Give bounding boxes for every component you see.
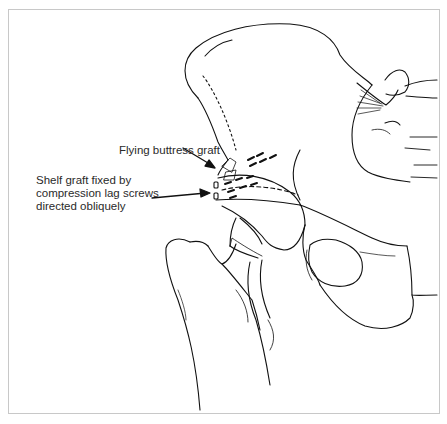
label-shelf-graft: Shelf graft fixed by compression lag scr…	[36, 174, 159, 213]
label-line: Shelf graft fixed by	[36, 174, 159, 187]
femur-outline	[166, 218, 274, 410]
label-line: compression lag screws	[36, 187, 159, 200]
shelf-graft-drawing	[214, 153, 305, 250]
label-line: directed obliquely	[36, 200, 159, 213]
label-flying-buttress-graft: Flying buttress graft	[119, 144, 220, 157]
arrow-shelf-graft	[152, 193, 206, 198]
label-line: Flying buttress graft	[119, 144, 220, 157]
ilium-outline	[185, 24, 437, 182]
